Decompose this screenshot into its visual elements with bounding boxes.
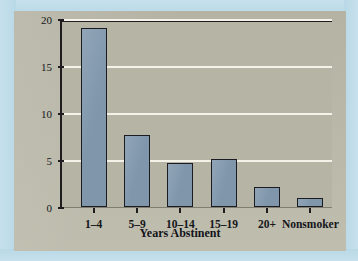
bar-sheen-overlay <box>125 136 149 206</box>
bar <box>124 135 150 207</box>
y-axis-tick-label: 5 <box>47 155 53 167</box>
x-axis-title: Years Abstinent <box>14 226 346 241</box>
x-axis-line <box>60 207 332 208</box>
y-axis-tick <box>58 207 64 209</box>
x-axis-tick <box>136 208 138 213</box>
y-axis-tick-label: 20 <box>41 14 52 26</box>
x-axis-tick <box>266 208 268 213</box>
x-axis-tick <box>309 208 311 213</box>
y-axis-tick <box>58 113 64 115</box>
y-axis-tick <box>58 66 64 68</box>
bar <box>81 28 107 207</box>
bar <box>167 163 193 207</box>
x-axis-tick <box>223 208 225 213</box>
bar-sheen-overlay <box>298 199 322 206</box>
x-axis-tick <box>93 208 95 213</box>
bar-sheen-overlay <box>82 29 106 206</box>
y-axis-tick-label: 15 <box>41 61 52 73</box>
y-axis-tick <box>58 160 64 162</box>
bar-sheen-overlay <box>212 160 236 206</box>
figure-border-right <box>344 0 358 261</box>
bar-sheen-overlay <box>168 164 192 206</box>
x-axis-tick <box>179 208 181 213</box>
y-axis-tick <box>58 19 64 21</box>
y-axis-tick-label: 0 <box>47 202 53 214</box>
bar <box>254 187 280 207</box>
bar-sheen-overlay <box>255 188 279 206</box>
bar <box>297 198 323 207</box>
chart-panel: Mortality Ratio 05101520 1–45–910–1415–1… <box>14 11 346 251</box>
gridline <box>62 19 332 21</box>
plot-area: 05101520 1–45–910–1415–1920+Nonsmoker <box>60 20 332 208</box>
bar <box>211 159 237 207</box>
y-axis-tick-label: 10 <box>41 108 52 120</box>
figure-container: Mortality Ratio 05101520 1–45–910–1415–1… <box>0 0 358 261</box>
